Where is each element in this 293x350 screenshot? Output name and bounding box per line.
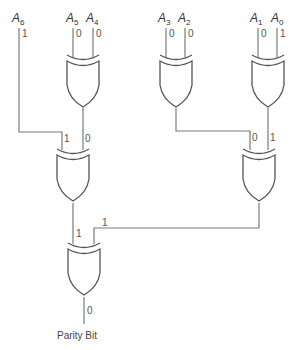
xor-gate-final xyxy=(68,243,100,295)
intermediate-wires xyxy=(73,108,268,324)
wire-g2-out xyxy=(176,108,250,150)
bit-g6-right: 1 xyxy=(102,217,108,228)
bit-a0: 1 xyxy=(280,28,286,39)
bit-a6: 1 xyxy=(22,28,28,39)
input-label-a1: A1 xyxy=(249,11,263,27)
bit-g5-right: 1 xyxy=(270,132,276,143)
bit-parity-out: 0 xyxy=(87,305,93,316)
bit-g6-left: 1 xyxy=(76,228,82,239)
xor-gate-a1-a0 xyxy=(252,55,284,107)
parity-circuit-diagram: A6 A5 A4 A3 A2 A1 A0 1 0 0 0 0 0 1 xyxy=(0,0,293,350)
bit-g4-left: 1 xyxy=(64,133,70,144)
wire-g5-out xyxy=(94,203,259,244)
input-label-a3: A3 xyxy=(157,11,171,27)
bit-a3: 0 xyxy=(169,28,175,39)
parity-bit-label: Parity Bit xyxy=(57,330,97,341)
input-wires xyxy=(19,28,277,150)
bit-g5-left: 0 xyxy=(252,132,258,143)
xor-gate-a3-a2 xyxy=(160,55,192,107)
xor-gate-a5-a4 xyxy=(67,55,99,107)
bit-g4-right: 0 xyxy=(85,133,91,144)
xor-gate-a6-g1 xyxy=(57,149,89,201)
input-label-a0: A0 xyxy=(270,11,284,27)
input-label-a4: A4 xyxy=(85,11,99,27)
input-label-a6: A6 xyxy=(11,11,25,27)
bit-a2: 0 xyxy=(188,28,194,39)
input-label-a5: A5 xyxy=(65,11,79,27)
bit-a5: 0 xyxy=(76,28,82,39)
xor-gate-g2-g3 xyxy=(243,149,275,201)
wire-a6 xyxy=(19,28,62,150)
bit-a4: 0 xyxy=(96,28,102,39)
input-label-a2: A2 xyxy=(177,11,191,27)
bit-a1: 0 xyxy=(261,28,267,39)
